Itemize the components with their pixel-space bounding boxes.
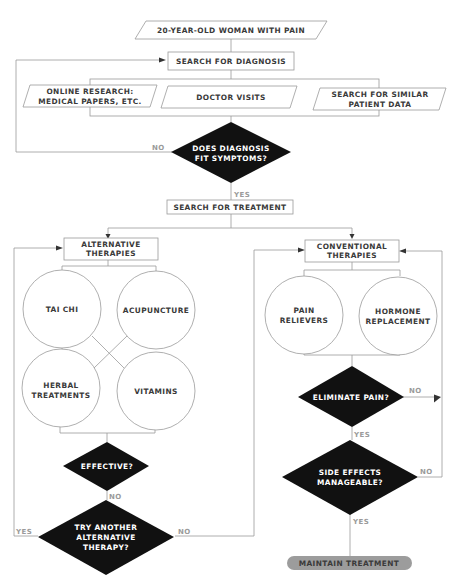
svg-text:MEDICAL PAPERS, ETC.: MEDICAL PAPERS, ETC.	[38, 97, 141, 106]
svg-text:DOES DIAGNOSIS: DOES DIAGNOSIS	[192, 144, 270, 153]
svg-text:FIT SYMPTOMS?: FIT SYMPTOMS?	[195, 154, 267, 163]
doctor-visits-node: DOCTOR VISITS	[161, 86, 297, 108]
search-treatment-node: SEARCH FOR TREATMENT	[167, 200, 293, 214]
edge-label-yes: YES	[352, 518, 369, 526]
svg-text:TREATMENTS: TREATMENTS	[32, 391, 91, 400]
svg-text:MAINTAIN TREATMENT: MAINTAIN TREATMENT	[299, 559, 400, 568]
arrow-head	[399, 249, 406, 254]
edge-label-no: NO	[409, 387, 422, 395]
svg-text:SEARCH FOR TREATMENT: SEARCH FOR TREATMENT	[173, 203, 286, 212]
svg-text:CONVENTIONAL: CONVENTIONAL	[317, 242, 387, 251]
herbal-treatments-node: HERBAL TREATMENTS	[22, 349, 100, 427]
svg-text:DOCTOR VISITS: DOCTOR VISITS	[196, 93, 266, 102]
svg-text:SIDE EFFECTS: SIDE EFFECTS	[319, 468, 382, 477]
similar-patient-node: SEARCH FOR SIMILAR PATIENT DATA	[313, 88, 446, 110]
start-node: 20-YEAR-OLD WOMAN WITH PAIN	[135, 21, 327, 39]
connector	[94, 336, 127, 368]
edge-label-no: NO	[109, 493, 122, 501]
vitamins-node: VITAMINS	[117, 352, 195, 430]
online-research-node: ONLINE RESEARCH: MEDICAL PAPERS, ETC.	[23, 85, 157, 107]
connector	[92, 336, 124, 368]
svg-text:REPLACEMENT: REPLACEMENT	[365, 317, 430, 326]
svg-text:TRY ANOTHER: TRY ANOTHER	[75, 523, 138, 532]
svg-text:20-YEAR-OLD WOMAN WITH PAIN: 20-YEAR-OLD WOMAN WITH PAIN	[157, 26, 305, 35]
svg-text:TAI CHI: TAI CHI	[46, 305, 79, 314]
svg-text:SEARCH FOR SIMILAR: SEARCH FOR SIMILAR	[331, 90, 428, 99]
alternative-therapies-node: ALTERNATIVE THERAPIES	[64, 238, 158, 260]
arrow-head	[434, 395, 441, 403]
arrow-head	[350, 234, 355, 239]
svg-text:HORMONE: HORMONE	[375, 307, 421, 316]
edge-label-no: NO	[178, 528, 191, 536]
svg-text:PATIENT DATA: PATIENT DATA	[349, 100, 412, 109]
arrow-head	[159, 58, 166, 63]
svg-text:PAIN: PAIN	[294, 306, 315, 315]
svg-text:MANAGEABLE?: MANAGEABLE?	[317, 478, 383, 487]
edge-label-yes: YES	[233, 191, 250, 199]
treatment-split	[108, 228, 352, 236]
edge-label-yes: YES	[15, 528, 32, 536]
acupuncture-node: ACUPUNCTURE	[117, 271, 195, 349]
edge-label-no: NO	[420, 468, 433, 476]
arrow-head	[298, 248, 305, 253]
svg-text:RELIEVERS: RELIEVERS	[280, 316, 329, 325]
try-another-decision: TRY ANOTHER ALTERNATIVE THERAPY?	[38, 500, 174, 575]
arrow-head	[56, 246, 63, 251]
hormone-replacement-node: HORMONE REPLACEMENT	[359, 277, 437, 355]
maintain-treatment-node: MAINTAIN TREATMENT	[287, 556, 412, 570]
side-effects-decision: SIDE EFFECTS MANAGEABLE?	[282, 440, 418, 515]
svg-text:EFFECTIVE?: EFFECTIVE?	[81, 462, 133, 471]
eliminate-pain-decision: ELIMINATE PAIN?	[298, 366, 404, 427]
edge-label-yes: YES	[353, 431, 370, 439]
svg-text:ELIMINATE PAIN?: ELIMINATE PAIN?	[313, 393, 389, 402]
conv-bracket-top	[304, 270, 400, 276]
edge-label-no: NO	[152, 144, 165, 152]
svg-text:ALTERNATIVE: ALTERNATIVE	[76, 533, 135, 542]
svg-text:ONLINE RESEARCH:: ONLINE RESEARCH:	[46, 87, 133, 96]
conventional-therapies-node: CONVENTIONAL THERAPIES	[305, 240, 399, 262]
svg-text:HERBAL: HERBAL	[43, 381, 78, 390]
svg-text:ACUPUNCTURE: ACUPUNCTURE	[123, 306, 189, 315]
svg-text:THERAPIES: THERAPIES	[86, 249, 136, 258]
search-diagnosis-node: SEARCH FOR DIAGNOSIS	[168, 52, 294, 70]
tai-chi-node: TAI CHI	[23, 270, 101, 348]
svg-text:ALTERNATIVE: ALTERNATIVE	[81, 240, 140, 249]
pain-relievers-node: PAIN RELIEVERS	[265, 276, 343, 354]
diagnosis-fit-decision: DOES DIAGNOSIS FIT SYMPTOMS?	[171, 122, 291, 183]
svg-text:THERAPY?: THERAPY?	[83, 543, 129, 552]
svg-text:THERAPIES: THERAPIES	[327, 251, 377, 260]
svg-text:SEARCH FOR DIAGNOSIS: SEARCH FOR DIAGNOSIS	[176, 57, 286, 66]
svg-text:VITAMINS: VITAMINS	[134, 387, 177, 396]
effective-decision: EFFECTIVE?	[63, 442, 149, 491]
